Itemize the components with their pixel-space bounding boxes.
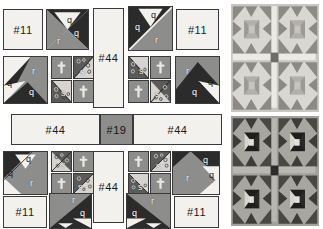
small-unit-s: s: [150, 151, 171, 172]
patch-number-44-left: #44: [12, 124, 99, 136]
unit-top-sashing-44: #44: [93, 8, 124, 108]
small-unit-s: s: [51, 80, 72, 103]
small-unit-t: [73, 151, 94, 172]
small-unit-t: [128, 80, 149, 103]
small-unit-s: s: [150, 80, 171, 103]
label-s: s: [61, 161, 66, 170]
label-s: s: [78, 183, 83, 192]
label-s: s: [138, 183, 143, 192]
unit-right-four-patch: s s: [128, 56, 172, 104]
label-q-left: q: [7, 79, 12, 88]
label-s: s: [156, 162, 161, 171]
unit-bottom-right-hourglass: q q r: [172, 151, 220, 195]
label-s: s: [155, 90, 160, 99]
unit-left-hourglass: q q r: [3, 56, 48, 104]
quilt-block-photo-light: [231, 4, 319, 112]
quilt-piecing-diagram: #11 q q r #44 q q r #11: [0, 0, 323, 229]
patch-number-11: #11: [4, 24, 42, 36]
unit-bottom-left-square-11: #11: [3, 196, 47, 228]
label-q-top: q: [26, 155, 31, 164]
unit-top-right-hourglass: q q r: [128, 6, 173, 51]
label-r: r: [186, 174, 189, 183]
label-r: r: [32, 67, 35, 76]
patch-number-44-bottom: #44: [94, 181, 123, 193]
unit-bottom-left-four-patch: s s: [51, 151, 93, 195]
small-unit-s: s: [51, 151, 72, 172]
label-q-top: q: [203, 156, 208, 165]
photo-finished-block-light: [231, 4, 319, 112]
label-r: r: [30, 179, 33, 188]
unit-top-right-square-11: #11: [176, 9, 219, 50]
cross-motif-icon: [151, 57, 170, 78]
unit-bottom-sashing-44: #44: [93, 151, 124, 223]
unit-center-right-sashing-44: #44: [133, 114, 222, 145]
small-unit-s: s: [73, 173, 94, 194]
small-unit-t: [51, 56, 72, 79]
unit-bottom-right-corner-hourglass: q r: [126, 193, 171, 229]
small-unit-s: s: [128, 173, 149, 194]
cross-motif-icon: [129, 152, 148, 171]
patch-number-44-top: #44: [94, 52, 123, 64]
cross-motif-icon: [74, 81, 93, 102]
label-r: r: [186, 67, 189, 76]
label-r: r: [155, 36, 158, 45]
label-q-right: q: [74, 29, 79, 38]
patch-number-11: #11: [4, 206, 46, 218]
cross-motif-icon: [151, 174, 170, 193]
label-q-top: q: [67, 16, 72, 25]
unit-bottom-right-square-11: #11: [174, 196, 219, 228]
label-r: r: [151, 197, 154, 206]
unit-top-left-hourglass: q q r: [46, 9, 89, 50]
unit-left-four-patch: s s: [51, 56, 91, 104]
label-q-bottom: q: [29, 88, 34, 97]
label-q-left: q: [132, 209, 137, 218]
cross-motif-icon: [74, 152, 93, 171]
label-q-right: q: [208, 78, 213, 87]
unit-center-left-sashing-44: #44: [11, 114, 100, 145]
small-unit-s: s: [73, 56, 94, 79]
small-unit-s: s: [128, 56, 149, 79]
patch-number-44-right: #44: [134, 124, 221, 136]
small-unit-t: [73, 80, 94, 103]
patch-number-11: #11: [175, 206, 218, 218]
half-square-triangle-shape: [151, 81, 170, 102]
small-unit-t: [51, 173, 72, 194]
label-r: r: [72, 196, 75, 205]
label-q-top: q: [151, 11, 156, 20]
unit-bottom-left-corner-hourglass: r q: [49, 193, 92, 229]
patch-number-11: #11: [177, 24, 218, 36]
label-q-right: q: [209, 171, 214, 180]
photo-finished-block-dark: [231, 116, 319, 226]
unit-center-square-19: #19: [100, 114, 133, 145]
small-unit-t: [150, 173, 171, 194]
small-unit-t: [128, 151, 149, 172]
label-q-left: q: [8, 169, 13, 178]
label-s: s: [80, 68, 85, 77]
label-s: s: [61, 89, 66, 98]
unit-right-hourglass: r q q: [175, 56, 220, 104]
label-q-bottom: q: [192, 88, 197, 97]
half-square-triangle-shape: [74, 174, 93, 193]
small-unit-t: [150, 56, 171, 79]
label-q-right: q: [80, 209, 85, 218]
label-s: s: [139, 67, 144, 76]
cross-motif-icon: [129, 81, 148, 102]
unit-top-left-square-11: #11: [3, 9, 43, 50]
cross-motif-icon: [52, 174, 71, 193]
patch-number-19: #19: [101, 124, 132, 136]
unit-bottom-left-hourglass: q q r: [3, 151, 48, 195]
unit-bottom-right-four-patch: s s: [128, 151, 170, 195]
label-q-left: q: [135, 23, 140, 32]
cross-motif-icon: [52, 57, 71, 78]
label-r: r: [57, 37, 60, 46]
quilt-block-photo-dark: [231, 116, 319, 226]
